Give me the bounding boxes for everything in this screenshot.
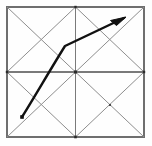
curved-arrow-tail-dot bbox=[20, 115, 24, 119]
square-grid-diagram bbox=[0, 0, 152, 146]
node-quadrant-br-center bbox=[109, 104, 111, 106]
node-left-mid bbox=[6, 71, 8, 73]
node-bottom-mid bbox=[74, 136, 77, 139]
node-right-mid bbox=[143, 71, 145, 73]
figure-root bbox=[0, 0, 152, 146]
node-top-mid bbox=[74, 6, 76, 8]
node-center bbox=[74, 71, 77, 74]
curved-arrow-shaft bbox=[22, 18, 124, 117]
